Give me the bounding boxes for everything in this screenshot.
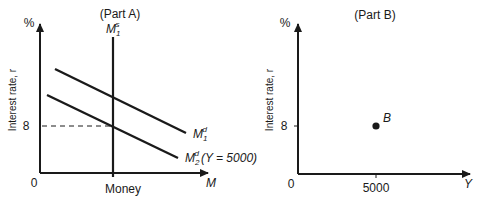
part-b-chart: (Part B) % Interest rate, r 8 0 5000 Y B: [264, 8, 473, 195]
part-b-y-label: Interest rate, r: [264, 68, 275, 131]
part-a-x-label: Money: [105, 182, 141, 196]
chart-canvas: (Part A) % Interest rate, r 8 0 M Money …: [0, 0, 480, 198]
part-a-tick-8: 8: [23, 119, 30, 133]
part-a-x-symbol: M: [206, 176, 216, 190]
part-a-origin: 0: [31, 176, 38, 190]
part-b-x-symbol: Y: [464, 177, 473, 191]
m1s-label: M1s: [106, 20, 120, 38]
part-a-y-label: Interest rate, r: [7, 68, 18, 131]
part-b-origin: 0: [288, 177, 295, 191]
part-b-tick-5000: 5000: [363, 181, 390, 195]
money-demand-m1d-line: [55, 69, 186, 133]
part-b-title: (Part B): [354, 8, 395, 22]
part-b-y-unit: %: [280, 16, 291, 30]
part-a-y-unit: %: [24, 16, 35, 30]
part-a-chart: (Part A) % Interest rate, r 8 0 M Money …: [7, 7, 257, 196]
point-b-label: B: [383, 111, 391, 125]
part-a-title: (Part A): [100, 7, 141, 21]
m2d-label: M2d(Y = 5000): [185, 149, 257, 167]
part-b-tick-8: 8: [281, 119, 288, 133]
m1d-label: M1d: [193, 125, 207, 143]
point-b-marker: [372, 122, 379, 129]
